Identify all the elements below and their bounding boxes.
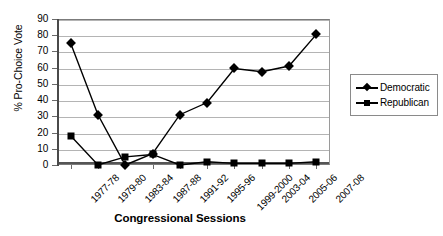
chart-figure: 9080706050403020100 % Pro-Choice Vote 19… [0,0,443,236]
y-tick-label: 90 [22,14,48,24]
x-tick-label: 1987-88 [170,172,203,205]
data-point-republican [176,162,183,169]
x-tick-label: 2005-06 [306,172,339,205]
x-axis-title: Congressional Sessions [0,212,360,224]
y-tick-label: 20 [22,128,48,138]
y-tick-mark [52,165,57,166]
y-tick-mark [52,149,57,150]
x-tick-label: 1995-96 [224,172,257,205]
y-tick-label: 70 [22,46,48,56]
data-point-republican [313,158,320,165]
gridline [58,20,329,21]
plot-area [57,19,330,165]
data-point-republican [149,151,156,158]
gridline [58,101,329,102]
y-tick-label: 0 [22,160,48,170]
x-tick-label: 1991-92 [197,172,230,205]
y-tick-label: 10 [22,144,48,154]
y-tick-label: 30 [22,111,48,121]
diamond-marker-icon [356,82,378,93]
x-tick-label: 1979-80 [115,172,148,205]
legend-label: Democratic [378,82,430,93]
x-tick-mark [71,165,72,169]
y-tick-mark [52,51,57,52]
x-tick-mark [316,165,317,169]
gridline [58,52,329,53]
data-point-republican [67,132,74,139]
data-point-republican [204,158,211,165]
y-tick-mark [52,19,57,20]
y-axis-line [57,19,59,166]
legend-label: Republican [378,97,429,108]
data-point-republican [258,160,265,167]
gridline [58,150,329,151]
y-tick-label: 60 [22,63,48,73]
data-point-republican [231,160,238,167]
gridline [58,36,329,37]
y-tick-label: 40 [22,95,48,105]
data-point-republican [94,162,101,169]
data-point-republican [122,153,129,160]
x-tick-label: 2007-08 [334,172,367,205]
y-axis-title: % Pro-Choice Vote [12,8,24,128]
y-tick-mark [52,116,57,117]
x-tick-label: 1983-84 [143,172,176,205]
x-tick-label: 1977-78 [88,172,121,205]
gridline [58,85,329,86]
y-tick-mark [52,100,57,101]
y-tick-mark [52,35,57,36]
gridline [58,134,329,135]
data-point-republican [286,160,293,167]
x-tick-mark [153,165,154,169]
y-tick-mark [52,84,57,85]
legend-item-democratic[interactable]: Democratic [356,80,433,95]
y-tick-mark [52,68,57,69]
y-tick-label: 80 [22,30,48,40]
y-tick-mark [52,133,57,134]
chart-legend: Democratic Republican [350,74,438,116]
y-tick-label: 50 [22,79,48,89]
x-tick-mark [207,165,208,169]
legend-item-republican[interactable]: Republican [356,95,433,110]
square-marker-icon [356,97,378,108]
